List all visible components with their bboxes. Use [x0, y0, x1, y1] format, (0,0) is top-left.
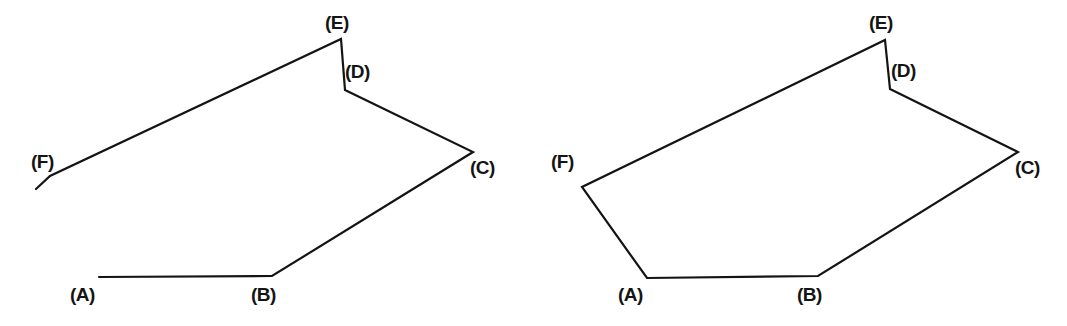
left-vertex-label-b: (B): [251, 285, 276, 304]
right-figure-polygon: [582, 40, 1018, 278]
left-vertex-label-d: (D): [345, 62, 370, 81]
left-figure-polyline: [36, 39, 473, 277]
left-vertex-label-f: (F): [31, 152, 54, 171]
right-vertex-label-e: (E): [869, 13, 893, 32]
right-vertex-label-f: (F): [551, 152, 574, 171]
right-vertex-label-a: (A): [618, 285, 643, 304]
right-vertex-label-b: (B): [797, 285, 822, 304]
left-vertex-label-e: (E): [325, 13, 349, 32]
right-vertex-label-c: (C): [1015, 158, 1040, 177]
left-vertex-label-c: (C): [470, 158, 495, 177]
figure-canvas: (A) (B) (C) (D) (E) (F) (A) (B) (C) (D) …: [0, 0, 1067, 326]
right-vertex-label-d: (D): [891, 61, 916, 80]
left-vertex-label-a: (A): [70, 285, 95, 304]
left-figure-graphic: [0, 0, 1067, 326]
